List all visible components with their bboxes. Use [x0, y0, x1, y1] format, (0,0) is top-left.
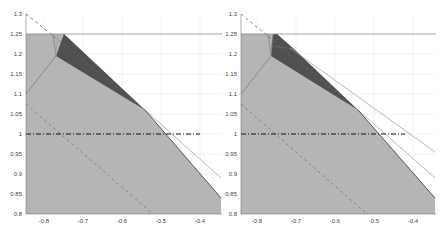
svg-text:-0.8: -0.8 — [39, 218, 50, 224]
svg-text:1.05: 1.05 — [10, 111, 22, 117]
svg-text:-0.8: -0.8 — [252, 218, 263, 224]
left-light-region — [26, 34, 221, 214]
svg-text:0.9: 0.9 — [229, 171, 238, 177]
svg-text:1.1: 1.1 — [229, 91, 238, 97]
svg-text:1.15: 1.15 — [10, 71, 22, 77]
svg-text:1.3: 1.3 — [14, 11, 23, 17]
svg-text:-0.6: -0.6 — [117, 218, 128, 224]
svg-text:1.25: 1.25 — [10, 31, 22, 37]
svg-text:1.1: 1.1 — [14, 91, 23, 97]
svg-text:-0.5: -0.5 — [369, 218, 380, 224]
svg-text:1.3: 1.3 — [229, 11, 238, 17]
svg-text:-0.6: -0.6 — [330, 218, 341, 224]
svg-text:1.05: 1.05 — [225, 111, 237, 117]
svg-text:0.9: 0.9 — [14, 171, 23, 177]
right-plot: 1.3 1.25 1.2 1.15 1.1 1.05 1 0.95 0.9 0.… — [225, 11, 436, 224]
left-x-tick-labels: -0.8 -0.7 -0.6 -0.5 -0.4 — [39, 218, 206, 224]
left-plot: 1.3 1.25 1.2 1.15 1.1 1.05 1 0.95 0.9 0.… — [10, 11, 222, 224]
right-light-region — [241, 34, 435, 214]
svg-text:1.15: 1.15 — [225, 71, 237, 77]
svg-text:0.85: 0.85 — [10, 191, 22, 197]
right-y-tick-labels: 1.3 1.25 1.2 1.15 1.1 1.05 1 0.95 0.9 0.… — [225, 11, 237, 217]
svg-text:0.95: 0.95 — [225, 151, 237, 157]
svg-text:-0.4: -0.4 — [195, 218, 206, 224]
svg-text:0.95: 0.95 — [10, 151, 22, 157]
svg-text:1.2: 1.2 — [14, 51, 23, 57]
svg-text:0.8: 0.8 — [229, 211, 238, 217]
svg-text:1: 1 — [234, 131, 238, 137]
svg-text:-0.5: -0.5 — [156, 218, 167, 224]
svg-text:-0.7: -0.7 — [291, 218, 302, 224]
svg-text:-0.7: -0.7 — [78, 218, 89, 224]
svg-text:0.8: 0.8 — [14, 211, 23, 217]
svg-text:0.85: 0.85 — [225, 191, 237, 197]
svg-text:1: 1 — [19, 131, 23, 137]
svg-text:-0.4: -0.4 — [408, 218, 419, 224]
figure: 1.3 1.25 1.2 1.15 1.1 1.05 1 0.95 0.9 0.… — [0, 0, 448, 232]
svg-text:1.25: 1.25 — [225, 31, 237, 37]
right-x-tick-labels: -0.8 -0.7 -0.6 -0.5 -0.4 — [252, 218, 419, 224]
left-y-tick-labels: 1.3 1.25 1.2 1.15 1.1 1.05 1 0.95 0.9 0.… — [10, 11, 22, 217]
svg-text:1.2: 1.2 — [229, 51, 238, 57]
